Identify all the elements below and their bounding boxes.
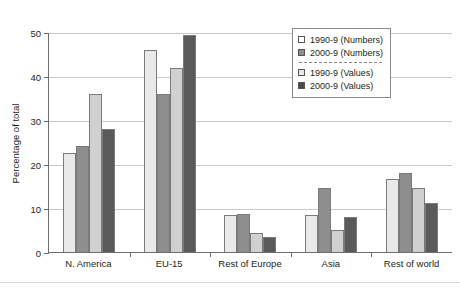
legend-divider bbox=[299, 62, 382, 63]
legend-swatch-icon bbox=[298, 36, 305, 43]
y-tick-label: 50 bbox=[30, 28, 41, 39]
x-tick-mark bbox=[210, 252, 211, 257]
x-axis-label: N. America bbox=[48, 258, 129, 269]
bar bbox=[170, 68, 183, 252]
bar-groups bbox=[49, 33, 452, 252]
x-tick-mark bbox=[371, 252, 372, 257]
bar bbox=[144, 50, 157, 252]
legend-item-label: 1990-9 (Numbers) bbox=[310, 35, 383, 45]
bar bbox=[386, 179, 399, 252]
y-axis-title: Percentage of total bbox=[9, 33, 23, 253]
bar-group bbox=[130, 33, 211, 252]
bar bbox=[76, 146, 89, 252]
y-tick-label: 10 bbox=[30, 204, 41, 215]
y-tick-label: 30 bbox=[30, 116, 41, 127]
legend-swatch-icon bbox=[298, 82, 305, 89]
legend-item-1990-numbers: 1990-9 (Numbers) bbox=[298, 33, 383, 46]
y-tick-label: 40 bbox=[30, 72, 41, 83]
bar bbox=[425, 203, 438, 252]
legend-item-1990-values: 1990-9 (Values) bbox=[298, 66, 383, 79]
bar bbox=[305, 215, 318, 252]
bar bbox=[399, 173, 412, 252]
x-axis-label: Rest of Europe bbox=[210, 258, 291, 269]
bar-chart: Percentage of total 01020304050 N. Ameri… bbox=[0, 0, 460, 291]
x-axis-label: Rest of world bbox=[371, 258, 452, 269]
y-tick-label: 0 bbox=[36, 248, 41, 259]
x-tick-mark bbox=[291, 252, 292, 257]
bar bbox=[318, 188, 331, 252]
bar-group bbox=[210, 33, 291, 252]
y-tick-mark bbox=[44, 253, 49, 254]
y-axis-title-label: Percentage of total bbox=[11, 103, 22, 183]
bar bbox=[331, 230, 344, 252]
legend: 1990-9 (Numbers) 2000-9 (Numbers) 1990-9… bbox=[292, 28, 391, 98]
x-axis-label: Asia bbox=[290, 258, 371, 269]
bar bbox=[250, 233, 263, 252]
bar bbox=[224, 215, 237, 252]
bar bbox=[157, 94, 170, 252]
bar bbox=[263, 237, 276, 252]
x-axis-label: EU-15 bbox=[129, 258, 210, 269]
legend-item-label: 1990-9 (Values) bbox=[310, 68, 373, 78]
bar bbox=[102, 129, 115, 252]
bar bbox=[344, 217, 357, 252]
bar bbox=[63, 153, 76, 252]
legend-swatch-icon bbox=[298, 69, 305, 76]
bar bbox=[237, 214, 250, 252]
bar bbox=[412, 188, 425, 252]
legend-item-2000-values: 2000-9 (Values) bbox=[298, 79, 383, 92]
legend-item-label: 2000-9 (Values) bbox=[310, 81, 373, 91]
legend-swatch-icon bbox=[298, 49, 305, 56]
y-tick-label: 20 bbox=[30, 160, 41, 171]
footer-divider bbox=[0, 282, 460, 283]
bar bbox=[89, 94, 102, 252]
x-axis-labels: N. AmericaEU-15Rest of EuropeAsiaRest of… bbox=[48, 258, 452, 269]
legend-item-label: 2000-9 (Numbers) bbox=[310, 48, 383, 58]
legend-item-2000-numbers: 2000-9 (Numbers) bbox=[298, 46, 383, 59]
bar-group bbox=[49, 33, 130, 252]
bar bbox=[183, 35, 196, 252]
plot-area: 01020304050 bbox=[48, 33, 452, 253]
x-tick-mark bbox=[130, 252, 131, 257]
